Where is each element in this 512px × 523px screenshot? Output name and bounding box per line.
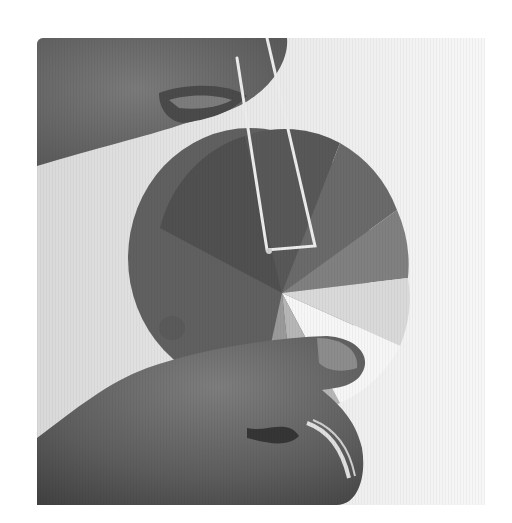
string-knot: [266, 248, 272, 254]
photo-scene: [37, 38, 485, 505]
photograph: [37, 38, 485, 505]
